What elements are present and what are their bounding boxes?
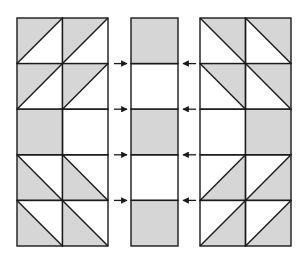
- right-cell-full: [246, 109, 292, 155]
- left-cell-tri-ll: [63, 155, 109, 201]
- left-cell-tri-ul: [17, 18, 63, 64]
- left-cell-tri-ul: [63, 64, 109, 110]
- right-cell-tri-lr: [246, 200, 292, 246]
- left-block-panel: [17, 18, 108, 246]
- middle-cell-empty: [131, 155, 178, 201]
- left-cell-empty: [63, 109, 109, 155]
- right-cell-tri-lr: [200, 200, 246, 246]
- right-cell-tri-lr: [200, 155, 246, 201]
- left-cell-tri-ll: [17, 200, 63, 246]
- middle-strip-panel: [131, 18, 178, 246]
- middle-cell-full: [131, 109, 178, 155]
- right-cell-tri-ur: [246, 18, 292, 64]
- middle-cell-full: [131, 200, 178, 246]
- middle-cell-full: [131, 18, 178, 64]
- right-cell-tri-ur: [200, 64, 246, 110]
- right-cell-tri-ur: [200, 18, 246, 64]
- right-cell-tri-ur: [246, 64, 292, 110]
- middle-cell-empty: [131, 64, 178, 110]
- right-cell-tri-lr: [246, 155, 292, 201]
- left-cell-tri-ll: [63, 200, 109, 246]
- right-cell-empty: [200, 109, 246, 155]
- left-cell-full: [17, 109, 63, 155]
- left-cell-tri-ll: [17, 155, 63, 201]
- right-block-panel: [200, 18, 291, 246]
- left-cell-tri-ul: [17, 64, 63, 110]
- quilt-block-diagram: [0, 0, 306, 261]
- left-cell-tri-ul: [63, 18, 109, 64]
